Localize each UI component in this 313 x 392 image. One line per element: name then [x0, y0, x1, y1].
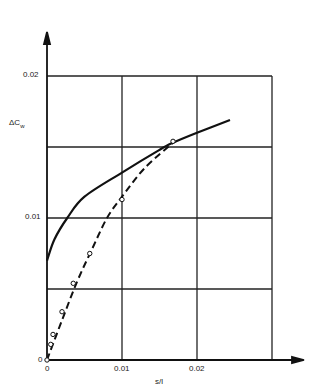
- data-point: [120, 197, 124, 201]
- data-point: [171, 139, 175, 143]
- solid-curve: [47, 120, 230, 261]
- grid: [47, 76, 272, 360]
- x-tick-0.02: 0.02: [189, 364, 205, 373]
- x-tick-0: 0: [45, 364, 49, 373]
- x-axis-label: s/l: [155, 377, 163, 386]
- chart-plot: [0, 0, 313, 392]
- y-tick-0.02: 0.02: [23, 70, 39, 79]
- data-point: [45, 358, 49, 362]
- dashed-curve: [47, 143, 173, 360]
- data-series: [45, 120, 230, 362]
- data-point: [49, 342, 53, 346]
- data-point: [71, 281, 75, 285]
- x-tick-0.01: 0.01: [114, 364, 130, 373]
- data-point: [60, 310, 64, 314]
- y-tick-0: 0: [38, 355, 42, 364]
- data-point: [51, 332, 55, 336]
- y-axis-label: ΔCw: [9, 118, 24, 129]
- data-point: [88, 251, 92, 255]
- y-tick-0.01: 0.01: [25, 212, 41, 221]
